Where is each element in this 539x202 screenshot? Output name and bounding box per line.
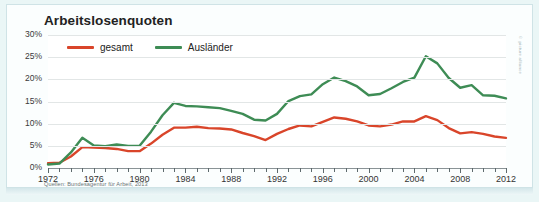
watermark-credit: © picture alliance bbox=[514, 35, 523, 81]
x-axis-tick-label: 2008 bbox=[450, 174, 470, 184]
x-axis-tick bbox=[59, 168, 60, 172]
x-axis-tick bbox=[105, 168, 106, 172]
x-axis-tick bbox=[94, 168, 95, 173]
x-axis-tick-label: 1972 bbox=[38, 174, 58, 184]
x-axis-tick-label: 2004 bbox=[404, 174, 424, 184]
x-axis-tick-label: 2000 bbox=[359, 174, 379, 184]
x-axis-tick bbox=[71, 168, 72, 172]
gridline bbox=[48, 102, 506, 103]
x-axis-tick bbox=[197, 168, 198, 172]
x-axis-tick-label: 1988 bbox=[221, 174, 241, 184]
x-axis-tick bbox=[174, 168, 175, 172]
x-axis-tick-label: 2012 bbox=[496, 174, 516, 184]
x-axis-tick bbox=[163, 168, 164, 172]
x-axis-tick bbox=[220, 168, 221, 172]
x-axis-tick bbox=[495, 168, 496, 172]
legend-label: Ausländer bbox=[188, 42, 233, 53]
x-axis-tick bbox=[334, 168, 335, 172]
legend-item-auslaender: Ausländer bbox=[155, 42, 233, 53]
outer-frame: Arbeitslosenquoten 30%25%20%15%10%5%0% g… bbox=[0, 0, 539, 202]
y-axis-tick-label: 20% bbox=[25, 74, 42, 83]
chart-card: Arbeitslosenquoten 30%25%20%15%10%5%0% g… bbox=[6, 4, 533, 188]
gridline bbox=[48, 146, 506, 147]
y-axis-tick-label: 30% bbox=[25, 30, 42, 39]
x-axis-tick bbox=[369, 168, 370, 173]
x-axis-tick bbox=[208, 168, 209, 172]
legend-item-gesamt: gesamt bbox=[67, 42, 133, 53]
x-axis-tick bbox=[380, 168, 381, 172]
x-axis-tick bbox=[82, 168, 83, 172]
legend-swatch-icon bbox=[155, 46, 182, 50]
x-axis-tick bbox=[449, 168, 450, 172]
x-axis-tick bbox=[426, 168, 427, 172]
x-axis-tick-label: 1992 bbox=[267, 174, 287, 184]
x-axis-tick bbox=[117, 168, 118, 172]
gridline bbox=[48, 79, 506, 80]
card-bottom-shadow bbox=[6, 188, 533, 195]
gridline bbox=[48, 57, 506, 58]
x-axis-tick bbox=[243, 168, 244, 172]
x-axis-tick bbox=[506, 168, 507, 173]
x-axis-tick-label: 1980 bbox=[130, 174, 150, 184]
x-axis-tick bbox=[311, 168, 312, 172]
legend-label: gesamt bbox=[100, 42, 133, 53]
x-axis-tick bbox=[392, 168, 393, 172]
x-axis-tick bbox=[357, 168, 358, 172]
x-axis-tick bbox=[346, 168, 347, 172]
x-axis-tick bbox=[48, 168, 49, 173]
x-axis-tick-label: 1976 bbox=[84, 174, 104, 184]
gridline bbox=[48, 124, 506, 125]
x-axis-tick bbox=[483, 168, 484, 172]
gridline bbox=[48, 35, 506, 36]
x-axis-tick-label: 1984 bbox=[175, 174, 195, 184]
x-axis-tick bbox=[437, 168, 438, 172]
x-axis-tick bbox=[460, 168, 461, 173]
y-axis-tick-label: 5% bbox=[30, 141, 42, 150]
x-axis-tick-label: 1996 bbox=[313, 174, 333, 184]
x-axis-tick bbox=[403, 168, 404, 172]
x-axis-tick bbox=[323, 168, 324, 173]
x-axis-tick bbox=[140, 168, 141, 173]
x-axis-tick bbox=[185, 168, 186, 173]
x-axis-tick bbox=[472, 168, 473, 172]
x-axis-tick bbox=[288, 168, 289, 172]
x-axis-tick bbox=[277, 168, 278, 173]
x-axis-tick bbox=[414, 168, 415, 173]
x-axis-tick bbox=[300, 168, 301, 172]
x-axis-tick bbox=[128, 168, 129, 172]
legend-swatch-icon bbox=[67, 46, 94, 50]
y-axis-tick-label: 10% bbox=[25, 119, 42, 128]
x-axis-tick bbox=[151, 168, 152, 172]
x-axis-tick bbox=[231, 168, 232, 173]
x-axis-tick bbox=[254, 168, 255, 172]
plot-area bbox=[48, 35, 506, 168]
chart-card-inner: Arbeitslosenquoten 30%25%20%15%10%5%0% g… bbox=[7, 5, 532, 187]
chart-legend: gesamt Ausländer bbox=[67, 42, 233, 53]
y-axis-tick-label: 0% bbox=[30, 163, 42, 172]
y-axis-tick-label: 25% bbox=[25, 52, 42, 61]
y-axis-labels: 30%25%20%15%10%5%0% bbox=[7, 35, 45, 169]
page-title: Arbeitslosenquoten bbox=[44, 13, 173, 28]
x-axis-tick bbox=[266, 168, 267, 172]
y-axis-tick-label: 15% bbox=[25, 97, 42, 106]
